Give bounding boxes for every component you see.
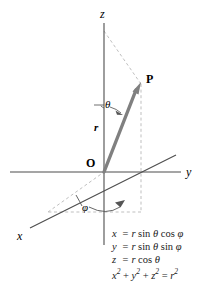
equation-function-1: cos [138, 254, 152, 265]
phi-arrow-head [115, 200, 125, 208]
equation-rhs: = r sin θ sin φ [122, 241, 184, 254]
identity-equals: = [162, 270, 168, 281]
x-axis-label: x [17, 230, 22, 242]
equation-rhs: = r cos θ [122, 254, 184, 267]
point-p-label: P [146, 73, 153, 85]
equation-coefficient: r [131, 254, 135, 265]
equation-function-2: sin [161, 241, 173, 252]
equation-list: x = r sin θ cos φ y = r sin θ sin [112, 228, 183, 283]
equation-relation: = [122, 228, 129, 239]
theta-pointer-line [110, 107, 121, 113]
identity-row: x2 + y2 + z2 = r2 [112, 267, 183, 283]
phi-label: φ [82, 202, 88, 213]
identity-y-exponent: 2 [136, 267, 140, 276]
equation-function-1: sin [138, 241, 150, 252]
equation-relation: = [122, 254, 129, 265]
equation-function-2: cos [161, 228, 175, 239]
theta-label: θ [105, 99, 110, 110]
equation-lhs: x [112, 228, 122, 241]
x-axis-line [30, 155, 176, 228]
equation-rhs: = r sin θ cos φ [122, 228, 184, 241]
equation-coefficient: r [131, 241, 135, 252]
identity-plus-2: + [143, 270, 149, 281]
dashed-x-to-projection [48, 172, 104, 212]
equation-argument-2: φ [176, 241, 182, 252]
radius-vector-label: r [94, 122, 98, 133]
equation-lhs: z [112, 254, 122, 267]
identity-plus-1: + [123, 270, 129, 281]
identity-z-exponent: 2 [155, 267, 159, 276]
y-axis-label: y [186, 166, 191, 178]
equation-argument-2: φ [177, 228, 183, 239]
equation-coefficient: r [131, 228, 135, 239]
equation-relation: = [122, 241, 129, 252]
origin-label: O [86, 157, 95, 169]
equation-function-1: sin [138, 228, 150, 239]
z-axis-label: z [100, 8, 105, 20]
identity-x-exponent: 2 [117, 267, 121, 276]
radius-vector-arrow [104, 82, 141, 172]
equation-lhs: y [112, 241, 122, 254]
equation-row: y = r sin θ sin φ [112, 241, 183, 254]
equation-row: z = r cos θ [112, 254, 183, 267]
spherical-coordinates-figure: z y x O P r θ φ x = r sin θ cos φ y [0, 0, 216, 292]
coordinate-diagram [0, 0, 216, 292]
identity-equation: x2 + y2 + z2 = r2 [112, 267, 183, 283]
equation-argument-1: θ [153, 228, 158, 239]
equation-row: x = r sin θ cos φ [112, 228, 183, 241]
equation-argument-1: θ [153, 241, 158, 252]
identity-r-exponent: 2 [174, 267, 178, 276]
dashed-z-to-p [104, 31, 141, 84]
equation-argument-1: θ [155, 254, 160, 265]
